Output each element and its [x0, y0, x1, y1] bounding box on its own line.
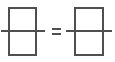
equals-sign-upper-bar: [52, 28, 61, 30]
bisected-rectangles-diagram: [0, 0, 115, 62]
equals-sign-lower-bar: [52, 33, 61, 35]
figure-canvas: [0, 0, 115, 62]
